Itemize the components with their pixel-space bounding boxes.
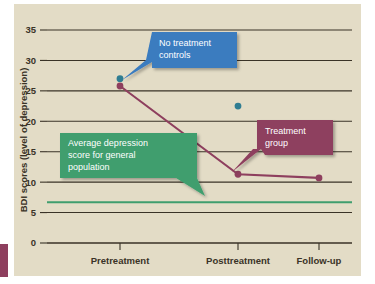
y-tick-label: 35 (25, 24, 36, 35)
y-axis-title: BDI scores (level of depression) (18, 68, 29, 213)
y-tick-label: 0 (31, 237, 36, 248)
no-treatment-controls-series (117, 75, 242, 109)
data-point (117, 83, 124, 90)
callout-treatment-group-line1: Treatment (265, 126, 306, 136)
figure-root: 05101520253035 PretreatmentPosttreatment… (0, 0, 375, 284)
data-point (316, 174, 323, 181)
y-tick-label: 30 (25, 55, 36, 66)
x-tick-group: PretreatmentPosttreatmentFollow-up (91, 243, 342, 266)
bdi-line-chart: 05101520253035 PretreatmentPosttreatment… (0, 0, 375, 284)
y-tick-label: 5 (31, 207, 37, 218)
data-point (235, 103, 242, 110)
callout-no-treatment-controls-line1: No treatment (159, 38, 212, 48)
x-axis-label: Follow-up (297, 255, 342, 266)
x-axis-label: Posttreatment (206, 255, 271, 266)
callout-no-treatment-controls-line2: controls (159, 50, 191, 60)
data-point (235, 171, 242, 178)
callout-treatment-group-line2: group (265, 138, 288, 148)
data-point (117, 75, 124, 82)
callout-average-population-line2: score for general (68, 150, 136, 160)
callout-average-population-line3: population (68, 162, 110, 172)
x-axis-label: Pretreatment (91, 255, 150, 266)
callout-average-population-line1: Average depression (68, 138, 148, 148)
